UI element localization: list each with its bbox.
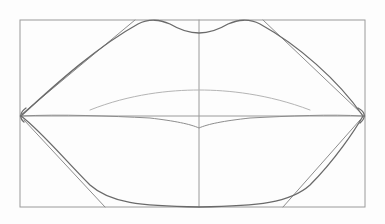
upper-lip-guide-lines <box>22 20 362 114</box>
upper-lip-outline <box>21 20 363 116</box>
bounding-box <box>20 20 365 207</box>
mouth-line <box>21 115 363 128</box>
lower-lip-guide-lines <box>24 120 360 207</box>
lower-lip-outline <box>21 116 363 207</box>
lips-sketch <box>0 0 385 224</box>
upper-lip-inner-edge <box>90 90 310 110</box>
